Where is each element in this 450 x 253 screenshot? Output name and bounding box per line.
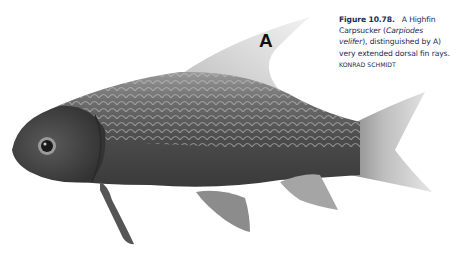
figure: A Figure 10.78. A Highfin Carpsucker (Ca… xyxy=(0,0,450,253)
figure-label-a: A xyxy=(259,31,273,50)
figure-caption: Figure 10.78. A Highfin Carpsucker (Carp… xyxy=(339,14,450,70)
photo-credit: KONRAD SCHMIDT xyxy=(339,61,396,68)
figure-number: Figure 10.78. xyxy=(339,15,395,24)
